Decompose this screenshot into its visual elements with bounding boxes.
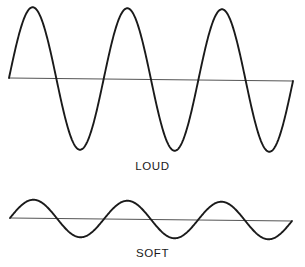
- loud-label: LOUD: [0, 160, 305, 172]
- waveforms-canvas: [0, 0, 305, 267]
- sound-wave-diagram: LOUD SOFT: [0, 0, 305, 267]
- soft-waveform-group: [10, 200, 292, 240]
- soft-label: SOFT: [0, 247, 305, 259]
- loud-waveform-group: [9, 7, 293, 152]
- soft-waveform-path: [10, 200, 292, 240]
- loud-waveform-path: [9, 7, 293, 152]
